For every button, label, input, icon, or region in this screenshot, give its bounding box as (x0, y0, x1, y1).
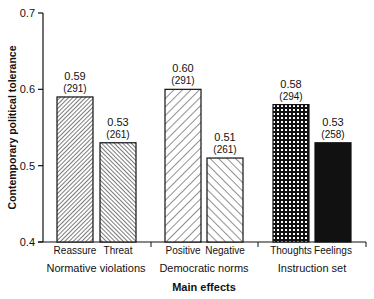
y-tick-label: 0.4 (20, 236, 35, 248)
x-tick-label: Negative (205, 245, 245, 256)
bar-value-label: 0.53 (107, 116, 128, 128)
bar-chart: 0.40.50.60.7Contemporary political toler… (0, 0, 374, 299)
x-tick-label: Positive (165, 245, 200, 256)
bar-n-label: (291) (171, 75, 194, 86)
x-tick-label: Reassure (54, 245, 97, 256)
y-tick-label: 0.5 (20, 160, 35, 172)
bar-value-label: 0.53 (322, 116, 343, 128)
group-label: Democratic norms (159, 262, 249, 274)
x-tick-label: Feelings (314, 245, 352, 256)
y-tick-label: 0.7 (20, 7, 35, 19)
bar-threat (100, 143, 136, 242)
bar-n-label: (291) (63, 83, 86, 94)
bar-n-label: (294) (279, 91, 302, 102)
bar-thoughts (273, 105, 309, 242)
bar-n-label: (261) (106, 129, 129, 140)
bar-feelings (315, 143, 351, 242)
bar-reassure (57, 97, 93, 242)
y-tick-label: 0.6 (20, 83, 35, 95)
x-axis-title: Main effects (172, 281, 236, 293)
x-tick-label: Thoughts (270, 245, 312, 256)
bar-positive (165, 89, 201, 242)
bar-n-label: (258) (321, 129, 344, 140)
bar-negative (207, 158, 243, 242)
bar-value-label: 0.59 (64, 70, 85, 82)
bar-value-label: 0.58 (280, 78, 301, 90)
bar-n-label: (261) (213, 144, 236, 155)
y-axis-title: Contemporary political tolerance (6, 45, 18, 209)
bar-value-label: 0.51 (214, 131, 235, 143)
bar-value-label: 0.60 (172, 62, 193, 74)
x-tick-label: Threat (104, 245, 133, 256)
group-label: Instruction set (278, 262, 346, 274)
group-label: Normative violations (46, 262, 146, 274)
